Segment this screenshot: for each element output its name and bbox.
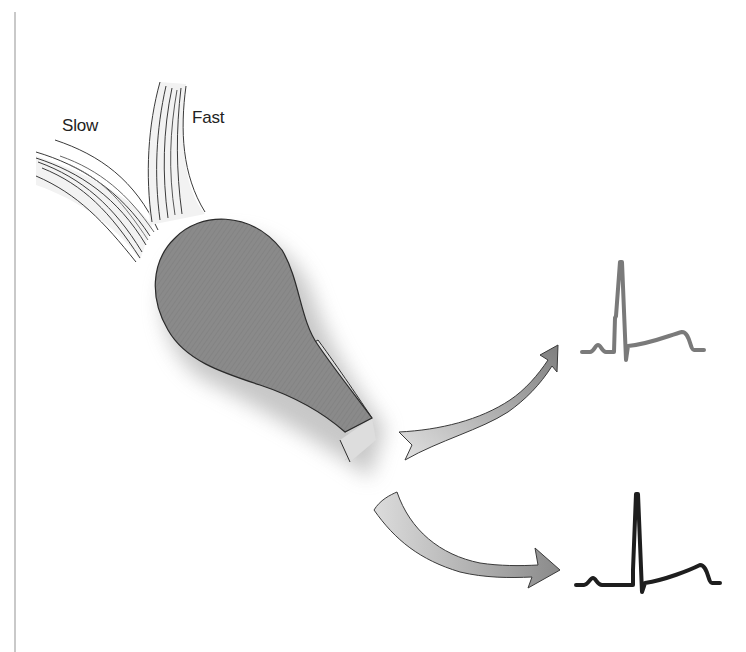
curved-arrow-up bbox=[399, 345, 558, 460]
slow-fiber-label: Slow bbox=[62, 116, 98, 136]
curved-arrow-down bbox=[374, 492, 560, 588]
fast-fiber-bundle bbox=[148, 82, 205, 225]
slow-fiber-bundle bbox=[36, 140, 158, 262]
ecg-waveform-black bbox=[576, 494, 720, 592]
muscle-diagram bbox=[0, 0, 746, 652]
fast-fiber-label: Fast bbox=[192, 108, 224, 128]
ecg-waveform-gray bbox=[582, 262, 704, 360]
